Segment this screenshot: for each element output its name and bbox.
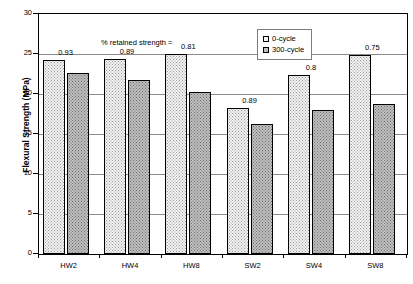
bar-SW2-series1 [251, 124, 273, 254]
bar-SW2-series0 [227, 108, 249, 254]
x-axis-tick-mark [222, 254, 223, 258]
bar-group: 0.81 [162, 14, 223, 254]
plot-area: 0.930.890.810.890.80.75 [39, 14, 407, 254]
bar-SW4-series1 [312, 110, 334, 254]
legend-label-300-cycle: 300-cycle [272, 46, 304, 54]
legend-item-0-cycle: 0-cycle [263, 33, 304, 44]
series-0-swatch-icon [263, 36, 269, 42]
bar-HW4-series1 [128, 80, 150, 254]
x-axis-tick-mark [345, 254, 346, 258]
bar-SW8-series1 [373, 104, 395, 254]
bar-HW2-series0 [43, 60, 65, 254]
y-axis-tick-label: 0 [2, 249, 32, 257]
x-axis-tick-label-SW4: SW4 [284, 261, 344, 270]
x-axis-tick-mark [283, 254, 284, 258]
bar-data-label-HW2: 0.93 [37, 49, 95, 57]
bar-data-label-SW8: 0.75 [343, 44, 401, 52]
x-axis-tick-mark [38, 254, 39, 258]
bar-HW2-series1 [67, 73, 89, 254]
x-axis-tick-label-SW8: SW8 [345, 261, 405, 270]
bar-SW4-series0 [288, 75, 310, 254]
y-axis-tick-label: 25 [2, 49, 32, 57]
x-axis-tick-label-SW2: SW2 [223, 261, 283, 270]
bar-data-label-SW4: 0.8 [282, 64, 340, 72]
y-axis-tick-label: 5 [2, 209, 32, 217]
x-axis-tick-label-HW4: HW4 [100, 261, 160, 270]
bar-HW4-series0 [104, 59, 126, 254]
y-axis-title: Flexural Strength (MPa) [21, 35, 31, 215]
y-axis-tick-label: 20 [2, 89, 32, 97]
y-axis-tick-label: 30 [2, 9, 32, 17]
bar-SW8-series0 [349, 55, 371, 254]
legend-item-300-cycle: 300-cycle [263, 44, 304, 55]
legend-label-0-cycle: 0-cycle [272, 35, 296, 43]
series-1-swatch-icon [263, 47, 269, 53]
bar-group: 0.89 [100, 14, 161, 254]
bar-data-label-SW2: 0.89 [221, 97, 279, 105]
plot-frame: 0.930.890.810.890.80.75 % retained stren… [38, 13, 408, 255]
x-axis-tick-mark [161, 254, 162, 258]
x-axis-tick-mark [406, 254, 407, 258]
bar-HW8-series0 [165, 54, 187, 254]
bar-data-label-HW4: 0.89 [98, 48, 156, 56]
x-axis-tick-label-HW2: HW2 [39, 261, 99, 270]
bar-group: 0.75 [346, 14, 407, 254]
chart-legend: 0-cycle 300-cycle [257, 29, 312, 60]
x-axis-tick-label-HW8: HW8 [161, 261, 221, 270]
y-axis-tick-label: 10 [2, 169, 32, 177]
flexural-strength-bar-chart: Flexural Strength (MPa) 051015202530 0.9… [0, 0, 413, 284]
x-axis-tick-mark [99, 254, 100, 258]
retained-strength-annotation: % retained strength = [101, 38, 173, 47]
bar-HW8-series1 [189, 92, 211, 254]
y-axis-tick-label: 15 [2, 129, 32, 137]
bar-group: 0.93 [39, 14, 100, 254]
